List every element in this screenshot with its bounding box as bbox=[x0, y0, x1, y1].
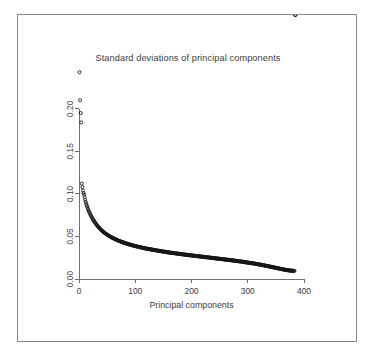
y-tick-label-0: 0.00 bbox=[65, 271, 75, 288]
data-point bbox=[80, 182, 83, 185]
x-tick-label-1: 100 bbox=[128, 286, 142, 296]
y-tick-label-2: 0.10 bbox=[65, 185, 75, 202]
data-point bbox=[80, 121, 83, 124]
x-tick-label-2: 200 bbox=[185, 286, 199, 296]
data-point bbox=[79, 99, 82, 102]
data-point-series bbox=[78, 15, 297, 272]
x-tick-label-3: 300 bbox=[241, 286, 255, 296]
y-tick-label-3: 0.15 bbox=[65, 143, 75, 160]
chart-plot-area: Standard deviations of principal compone… bbox=[18, 15, 358, 343]
data-point-series-interpolated bbox=[101, 15, 297, 272]
scree-plot-svg: 0.000.050.100.150.200100200300400Princip… bbox=[18, 15, 358, 343]
y-tick-label-4: 0.20 bbox=[65, 100, 75, 117]
data-point bbox=[79, 111, 82, 114]
data-point bbox=[81, 186, 84, 189]
x-axis-title: Principal components bbox=[149, 300, 234, 310]
x-tick-label-4: 400 bbox=[297, 286, 311, 296]
data-point bbox=[78, 71, 81, 74]
x-tick-label-0: 0 bbox=[77, 286, 82, 296]
y-tick-label-1: 0.05 bbox=[65, 228, 75, 245]
figure-frame: Standard deviations of principal compone… bbox=[17, 14, 357, 342]
